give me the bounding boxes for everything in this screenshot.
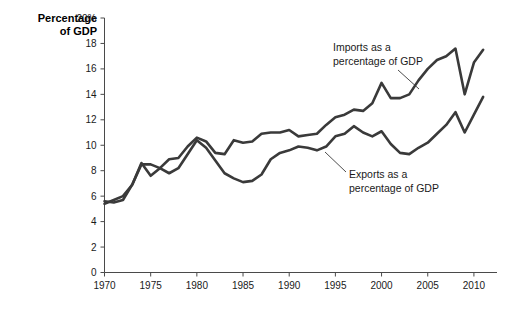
exports-annotation-line2: percentage of GDP bbox=[349, 182, 439, 194]
imports-annotation: Imports as a percentage of GDP bbox=[333, 41, 423, 89]
line-chart: Percentage of GDP 02468101214161820% 197… bbox=[0, 0, 510, 309]
y-tick-label: 2 bbox=[91, 242, 97, 253]
data-series-group bbox=[105, 49, 484, 204]
x-tick-label: 2005 bbox=[417, 280, 440, 291]
imports-annotation-line2: percentage of GDP bbox=[333, 55, 423, 67]
y-tick-label: 6 bbox=[91, 191, 97, 202]
x-tick-label: 1985 bbox=[232, 280, 255, 291]
y-tick-label: 18 bbox=[85, 38, 97, 49]
y-tick-label: 10 bbox=[85, 140, 97, 151]
y-tick-label: 16 bbox=[85, 63, 97, 74]
x-axis-ticks: 197019751980198519901995200020052010 bbox=[93, 273, 485, 291]
x-tick-label: 1975 bbox=[140, 280, 163, 291]
exports-leader-line bbox=[325, 152, 346, 172]
x-tick-label: 1995 bbox=[324, 280, 347, 291]
y-tick-label: 20% bbox=[76, 13, 96, 24]
y-axis-ticks: 02468101214161820% bbox=[76, 13, 104, 279]
x-tick-label: 1970 bbox=[93, 280, 116, 291]
y-tick-label: 4 bbox=[91, 216, 97, 227]
exports-annotation-line1: Exports as a bbox=[349, 168, 408, 180]
x-tick-label: 2000 bbox=[370, 280, 393, 291]
chart-container: Percentage of GDP 02468101214161820% 197… bbox=[0, 0, 510, 309]
exports-annotation: Exports as a percentage of GDP bbox=[325, 152, 439, 194]
imports-series-line bbox=[105, 49, 484, 204]
axis-lines bbox=[105, 18, 498, 273]
y-axis-title-line2: of GDP bbox=[60, 25, 97, 37]
x-tick-label: 2010 bbox=[463, 280, 486, 291]
x-tick-label: 1980 bbox=[186, 280, 209, 291]
y-tick-label: 14 bbox=[85, 89, 97, 100]
imports-leader-line bbox=[398, 70, 419, 89]
y-tick-label: 12 bbox=[85, 114, 97, 125]
y-tick-label: 0 bbox=[91, 267, 97, 278]
imports-annotation-line1: Imports as a bbox=[333, 41, 391, 53]
x-tick-label: 1990 bbox=[278, 280, 301, 291]
y-tick-label: 8 bbox=[91, 165, 97, 176]
